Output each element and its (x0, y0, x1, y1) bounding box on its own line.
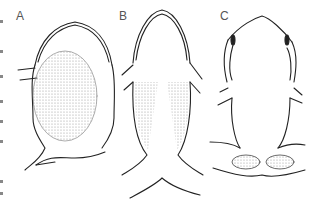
stippled-patch-b-right (167, 82, 189, 150)
stippled-gland-c-right (266, 155, 294, 169)
stippled-gland-c-left (232, 155, 260, 169)
eye-c-left (231, 35, 235, 45)
frog-illustrations (0, 0, 318, 206)
frog-c-outline (210, 16, 305, 176)
eye-c-right (285, 35, 289, 45)
stippled-patch-a (33, 51, 97, 141)
stippled-patch-b-left (135, 82, 158, 150)
frog-b-outline (122, 10, 203, 198)
